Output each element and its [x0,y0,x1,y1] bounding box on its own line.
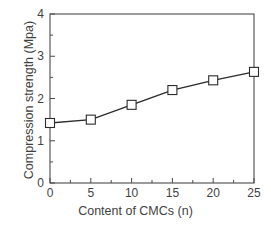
y-tick-label: 2 [22,92,44,106]
x-axis-ticks [50,178,254,183]
data-point-marker [127,100,136,109]
data-point-marker [46,119,55,128]
x-tick-label: 10 [117,186,147,200]
data-point-marker [168,86,177,95]
y-tick-label: 3 [22,49,44,63]
y-tick-label: 4 [22,7,44,21]
data-point-marker [250,67,259,76]
data-point-marker [209,76,218,85]
y-axis-ticks [50,14,55,183]
x-tick-label: 15 [157,186,187,200]
x-tick-label: 25 [239,186,269,200]
data-point-marker [86,115,95,124]
y-tick-label: 1 [22,134,44,148]
x-tick-label: 20 [198,186,228,200]
x-tick-label: 5 [76,186,106,200]
x-axis-title: Content of CMCs (n) [0,204,271,218]
plot-frame [50,14,254,183]
data-line [50,72,254,123]
compression-strength-chart: Compression strength (Mpa) Content of CM… [0,0,271,231]
y-tick-label: 0 [22,176,44,190]
